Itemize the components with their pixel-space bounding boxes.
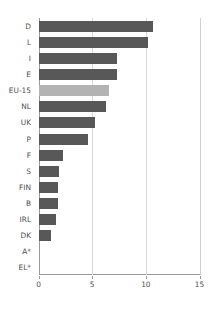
- bar-row: [39, 114, 200, 131]
- bar-fin: [39, 182, 58, 193]
- y-tick-label-d: D: [25, 18, 31, 35]
- y-axis-category-labels: DLIEEU-15NLUKPFSFINBIRLDKA*EL*: [0, 18, 35, 275]
- bar-row: [39, 34, 200, 51]
- y-tick-label-i: I: [29, 50, 31, 67]
- bar-b: [39, 198, 58, 209]
- bar-row: [39, 227, 200, 244]
- y-tick-label-e: E: [26, 66, 31, 83]
- bar-row: [39, 195, 200, 212]
- x-tick-label-10: 10: [141, 280, 150, 289]
- y-tick-label-a-star: A*: [22, 243, 31, 260]
- y-tick-label-b: B: [26, 195, 31, 212]
- bar-l: [39, 37, 148, 48]
- y-tick-label-uk: UK: [21, 114, 31, 131]
- y-tick-label-nl: NL: [21, 98, 31, 115]
- y-tick-label-dk: DK: [20, 227, 31, 244]
- y-tick-label-f: F: [27, 147, 31, 164]
- bar-row: [39, 259, 200, 276]
- bar-s: [39, 166, 59, 177]
- bar-f: [39, 150, 64, 161]
- x-tick-mark-10: [146, 276, 147, 279]
- bar-row: [39, 98, 200, 115]
- bar-row: [39, 82, 200, 99]
- y-tick-label-l: L: [27, 34, 31, 51]
- y-tick-label-p: P: [27, 130, 31, 147]
- bar-e: [39, 69, 117, 80]
- bar-row: [39, 243, 200, 260]
- bar-i: [39, 53, 117, 64]
- y-tick-label-fin: FIN: [19, 179, 31, 196]
- x-tick-label-5: 5: [90, 280, 95, 289]
- bar-d: [39, 21, 154, 32]
- bar-eu-15: [39, 85, 110, 96]
- plot-area: [39, 18, 200, 275]
- x-tick-mark-5: [92, 276, 93, 279]
- y-tick-label-el-star: EL*: [19, 259, 31, 276]
- x-tick-label-0: 0: [36, 280, 41, 289]
- bar-chart: DLIEEU-15NLUKPFSFINBIRLDKA*EL* 051015: [0, 0, 214, 313]
- bar-row: [39, 66, 200, 83]
- bar-row: [39, 211, 200, 228]
- bar-row: [39, 50, 200, 67]
- bar-irl: [39, 214, 56, 225]
- gridline-15: [200, 18, 201, 275]
- y-tick-label-irl: IRL: [20, 211, 31, 228]
- bar-row: [39, 179, 200, 196]
- x-tick-mark-0: [39, 276, 40, 279]
- bar-dk: [39, 230, 52, 241]
- y-tick-label-eu-15: EU-15: [9, 82, 31, 99]
- y-tick-label-s: S: [26, 163, 31, 180]
- bar-uk: [39, 117, 96, 128]
- bar-row: [39, 163, 200, 180]
- x-axis-ticks: 051015: [39, 276, 200, 290]
- x-tick-mark-15: [200, 276, 201, 279]
- bar-row: [39, 147, 200, 164]
- bar-series: [39, 18, 200, 275]
- x-tick-label-15: 15: [195, 280, 204, 289]
- bar-row: [39, 18, 200, 35]
- bar-row: [39, 130, 200, 147]
- bar-nl: [39, 101, 107, 112]
- bar-p: [39, 134, 88, 145]
